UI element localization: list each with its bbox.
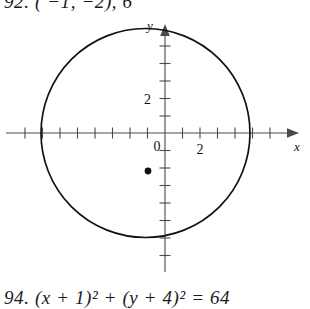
x-axis-label: x [293,139,300,154]
x-axis-arrowhead [287,128,299,138]
x-tick-label-2: 2 [197,142,204,157]
y-tick-label-2: 2 [144,92,151,107]
bottom-exercise-text: 94. (x + 1)² + (y + 4)² = 64 [4,287,230,309]
coordinate-plane-figure: y x 0 2 2 [0,14,310,282]
x-axis [6,128,299,138]
center-point-marker [145,168,152,175]
y-axis-label: y [145,18,153,33]
top-exercise-text: 92. ( −1, −2), 6 [4,0,133,13]
origin-label: 0 [154,139,161,154]
figure-page: 92. ( −1, −2), 6 [0,0,310,309]
coordinate-plane-svg: y x 0 2 2 [0,14,310,282]
